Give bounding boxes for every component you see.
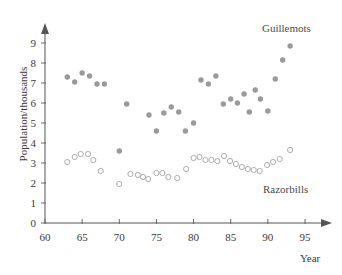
data-point	[206, 81, 211, 86]
y-tick-label: 3	[31, 157, 37, 169]
data-point	[91, 157, 96, 162]
data-point	[166, 174, 171, 179]
data-point	[203, 157, 208, 162]
scatter-chart: 6065707580859095 0123456789 Population/t…	[0, 0, 342, 275]
data-point	[251, 167, 256, 172]
data-point	[154, 128, 159, 133]
data-point	[253, 87, 258, 92]
y-tick-label: 2	[31, 177, 37, 189]
data-point	[191, 155, 196, 160]
y-axis-title: Population/thousands	[17, 44, 29, 184]
data-point	[72, 79, 77, 84]
data-point	[287, 43, 292, 48]
data-point	[241, 91, 246, 96]
data-point	[198, 77, 203, 82]
series-razorbills	[65, 147, 293, 186]
data-point	[87, 73, 92, 78]
data-point	[277, 156, 282, 161]
data-point	[265, 108, 270, 113]
y-tick-label: 5	[31, 117, 37, 129]
data-point	[176, 109, 181, 114]
x-axis-title: Year	[300, 252, 320, 264]
data-point	[169, 104, 174, 109]
y-tick-labels: 0123456789	[31, 37, 47, 229]
data-point	[85, 151, 90, 156]
x-tick-label: 95	[300, 231, 312, 243]
data-point	[78, 151, 83, 156]
data-point	[191, 120, 196, 125]
data-point	[265, 162, 270, 167]
y-tick-label: 4	[31, 137, 37, 149]
series-label-razorbills: Razorbills	[263, 183, 308, 195]
data-point	[146, 112, 151, 117]
data-point	[98, 168, 103, 173]
data-point	[154, 170, 159, 175]
data-point	[215, 158, 220, 163]
x-tick-label: 60	[40, 231, 52, 243]
data-point	[273, 76, 278, 81]
axes	[41, 23, 332, 227]
data-point	[228, 96, 233, 101]
data-point	[197, 154, 202, 159]
data-point	[128, 171, 133, 176]
data-point	[135, 172, 140, 177]
data-point	[161, 110, 166, 115]
data-point	[94, 81, 99, 86]
data-point	[117, 148, 122, 153]
x-tick-label: 80	[188, 231, 200, 243]
data-point	[213, 73, 218, 78]
data-point	[209, 157, 214, 162]
y-tick-label: 1	[31, 197, 37, 209]
data-point	[288, 147, 293, 152]
data-point	[124, 101, 129, 106]
data-point	[140, 174, 145, 179]
plot-area: 6065707580859095 0123456789	[0, 0, 342, 275]
data-point	[72, 154, 77, 159]
x-tick-label: 65	[77, 231, 89, 243]
data-point	[175, 175, 180, 180]
x-tick-label: 75	[151, 231, 163, 243]
data-point	[117, 181, 122, 186]
series-guillemots	[65, 43, 293, 153]
data-point	[184, 166, 189, 171]
data-point	[270, 159, 275, 164]
data-point	[79, 70, 84, 75]
series-label-guillemots: Guillemots	[262, 22, 311, 34]
y-tick-label: 6	[31, 97, 37, 109]
y-tick-label: 8	[31, 57, 37, 69]
data-point	[257, 168, 262, 173]
data-point	[280, 57, 285, 62]
data-point	[160, 170, 165, 175]
data-point	[258, 96, 263, 101]
data-point	[102, 81, 107, 86]
data-point	[233, 161, 238, 166]
y-tick-label: 0	[31, 217, 37, 229]
data-point	[235, 100, 240, 105]
data-point	[221, 101, 226, 106]
data-point	[245, 166, 250, 171]
data-point	[221, 153, 226, 158]
x-tick-label: 90	[262, 231, 274, 243]
x-tick-label: 85	[225, 231, 237, 243]
y-tick-label: 9	[31, 37, 37, 49]
data-point	[65, 159, 70, 164]
data-point	[183, 128, 188, 133]
data-point	[247, 109, 252, 114]
data-point	[146, 176, 151, 181]
data-point	[239, 164, 244, 169]
data-point	[227, 158, 232, 163]
x-tick-label: 70	[114, 231, 126, 243]
y-tick-label: 7	[31, 77, 37, 89]
data-point	[65, 74, 70, 79]
